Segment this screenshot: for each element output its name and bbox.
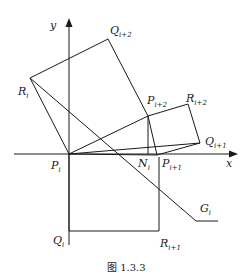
label-R-i: Ri [17,85,29,100]
label-R-i2: Ri+2 [185,92,207,107]
label-P-i2: Pi+2 [146,94,168,109]
y-axis-label: y [49,19,57,32]
label-R-i1: Ri+1 [159,237,181,252]
label-P-i1: Pi+1 [161,157,182,172]
label-Q-i2: Qi+2 [110,24,132,39]
label-N-i: Ni [137,157,150,172]
square-small [148,104,200,155]
x-axis-label: x [226,157,233,170]
geometry-diagram: y x Ri Qi+2 Pi+2 Ri+2 Qi+1 Pi Ni Pi+1 Gi… [0,0,248,279]
figure-caption: 图 1.3.3 [107,262,146,273]
label-P-i: Pi [50,159,61,174]
y-axis-arrow-icon [66,18,73,27]
square-upper [30,39,148,154]
label-G-i: Gi [200,202,211,217]
label-Q-i1: Qi+1 [205,135,227,150]
label-Q-i: Qi [53,234,64,249]
